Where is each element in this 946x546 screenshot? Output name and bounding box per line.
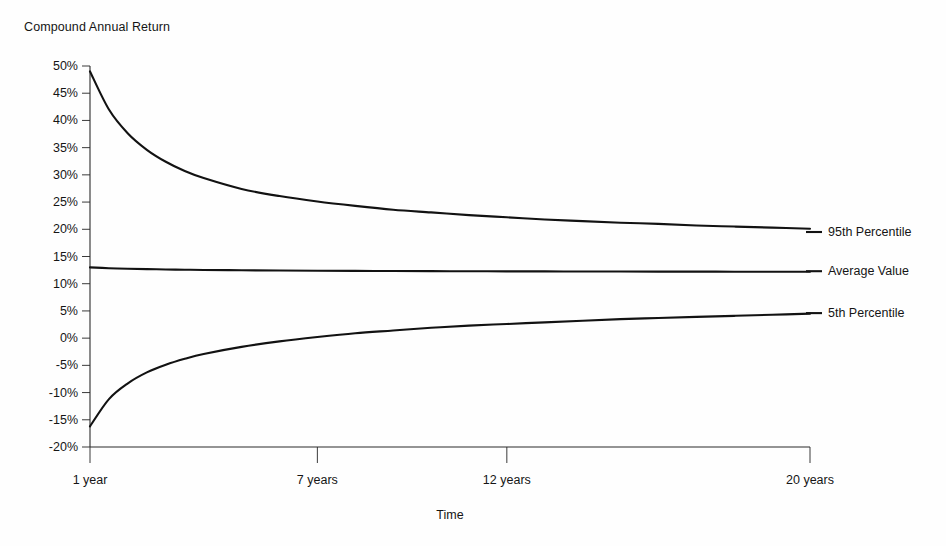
y-tick-label: 5% [26, 304, 78, 318]
tick-marks-group [82, 66, 810, 463]
y-tick-label: -5% [26, 358, 78, 372]
y-tick-label: 10% [26, 277, 78, 291]
y-tick-label: -15% [26, 413, 78, 427]
x-axis-title: Time [0, 508, 900, 522]
series-label: Average Value [828, 264, 909, 278]
y-tick-label: 40% [26, 113, 78, 127]
x-tick-label: 7 years [297, 473, 338, 487]
y-tick-label: 45% [26, 86, 78, 100]
y-tick-label: 20% [26, 222, 78, 236]
y-tick-label: 0% [26, 331, 78, 345]
series-line [90, 314, 810, 427]
chart-canvas: Compound Annual Return 50%45%40%35%30%25… [0, 0, 946, 546]
series-label: 95th Percentile [828, 225, 911, 239]
x-tick-label: 12 years [483, 473, 531, 487]
data-series-group [90, 71, 810, 426]
y-tick-label: 25% [26, 195, 78, 209]
series-line [90, 71, 810, 228]
x-tick-label: 1 year [73, 473, 108, 487]
y-tick-label: -20% [26, 440, 78, 454]
y-tick-label: 30% [26, 168, 78, 182]
series-label: 5th Percentile [828, 306, 904, 320]
x-tick-label: 20 years [786, 473, 834, 487]
plot-area [0, 0, 946, 546]
series-line [90, 267, 810, 271]
y-tick-label: 35% [26, 141, 78, 155]
y-tick-label: 15% [26, 250, 78, 264]
y-tick-label: 50% [26, 59, 78, 73]
y-tick-label: -10% [26, 386, 78, 400]
